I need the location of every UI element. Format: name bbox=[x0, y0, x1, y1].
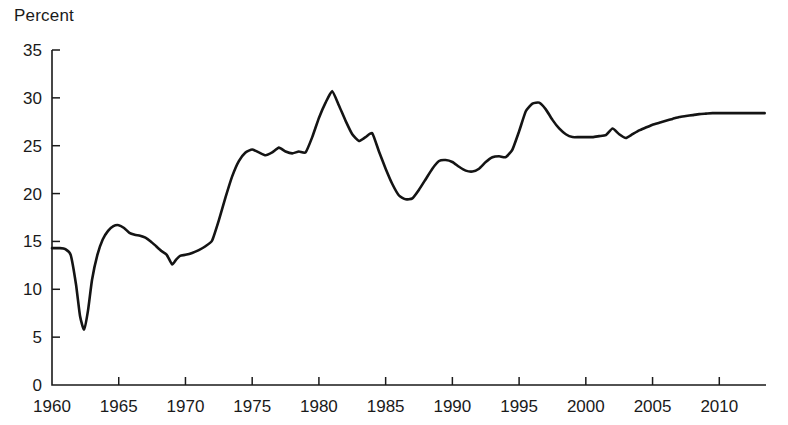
y-tick-label: 5 bbox=[33, 328, 42, 347]
x-tick-label: 2000 bbox=[567, 397, 605, 416]
y-tick-label: 0 bbox=[33, 376, 42, 395]
y-axis-ticks: 05101520253035 bbox=[23, 41, 60, 395]
x-axis-ticks: 1960196519701975198019851990199520002005… bbox=[33, 377, 738, 416]
y-tick-label: 35 bbox=[23, 41, 42, 60]
x-tick-label: 2005 bbox=[634, 397, 672, 416]
y-tick-label: 10 bbox=[23, 280, 42, 299]
line-chart-plot: 05101520253035 1960196519701975198019851… bbox=[0, 0, 788, 425]
x-tick-label: 1970 bbox=[167, 397, 205, 416]
x-tick-label: 1960 bbox=[33, 397, 71, 416]
y-tick-label: 15 bbox=[23, 232, 42, 251]
x-tick-label: 1975 bbox=[233, 397, 271, 416]
x-tick-label: 1965 bbox=[100, 397, 138, 416]
x-tick-label: 2010 bbox=[700, 397, 738, 416]
x-tick-label: 1995 bbox=[500, 397, 538, 416]
y-tick-label: 20 bbox=[23, 185, 42, 204]
y-tick-label: 30 bbox=[23, 89, 42, 108]
x-tick-label: 1980 bbox=[300, 397, 338, 416]
x-tick-label: 1985 bbox=[367, 397, 405, 416]
axis-lines bbox=[52, 50, 766, 385]
y-tick-label: 25 bbox=[23, 137, 42, 156]
series-line-percent bbox=[52, 91, 765, 329]
x-tick-label: 1990 bbox=[433, 397, 471, 416]
chart-container: Percent 05101520253035 19601965197019751… bbox=[0, 0, 788, 425]
